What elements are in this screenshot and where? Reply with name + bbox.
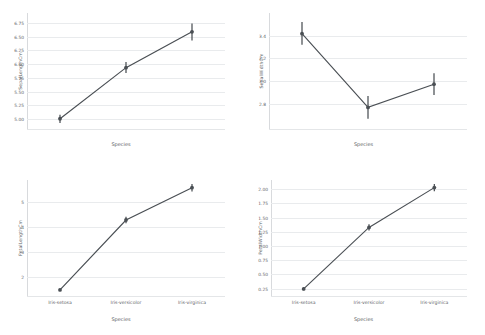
y-tick-label: 1.25 bbox=[258, 229, 271, 234]
y-tick-label: 3.2 bbox=[259, 56, 269, 61]
x-axis-label: Species bbox=[242, 316, 485, 322]
y-tick-label: 6.75 bbox=[14, 20, 27, 25]
plot-area: 0.250.500.751.001.251.501.752.00Iris-set… bbox=[271, 180, 467, 296]
data-point bbox=[367, 226, 371, 230]
data-point bbox=[366, 105, 370, 109]
y-axis-label: SepalLengthCm bbox=[18, 52, 23, 90]
y-tick-label: 1.50 bbox=[258, 215, 271, 220]
x-axis-line bbox=[271, 296, 467, 297]
series-line bbox=[60, 32, 192, 119]
panel-petal-length: PetalLengthCm Species 2345Iris-setosaIri… bbox=[0, 168, 242, 335]
y-tick-label: 5.25 bbox=[14, 103, 27, 108]
data-point bbox=[124, 218, 128, 222]
series-line bbox=[60, 188, 192, 290]
x-axis-line bbox=[269, 129, 467, 130]
data-point bbox=[58, 117, 62, 121]
x-tick-label: Iris-setosa bbox=[292, 300, 316, 305]
y-tick-label: 2.00 bbox=[258, 187, 271, 192]
panel-sepal-width: SepalWidthCm Species 2.83.03.23.4 bbox=[242, 0, 485, 168]
x-tick-label: Iris-setosa bbox=[48, 300, 72, 305]
y-tick-label: 0.25 bbox=[258, 286, 271, 291]
figure-grid: SepalLengthCm Species 5.005.255.505.756.… bbox=[0, 0, 485, 335]
y-tick-label: 5.00 bbox=[14, 117, 27, 122]
y-tick-label: 0.50 bbox=[258, 272, 271, 277]
series-line bbox=[304, 188, 435, 289]
y-tick-label: 0.75 bbox=[258, 258, 271, 263]
x-tick-label: Iris-versicolor bbox=[111, 300, 142, 305]
y-tick-label: 6.50 bbox=[14, 34, 27, 39]
x-axis-line bbox=[27, 129, 225, 130]
y-tick-label: 1.75 bbox=[258, 201, 271, 206]
x-axis-line bbox=[27, 296, 225, 297]
data-point bbox=[432, 82, 436, 86]
panel-petal-width: PetalWidthCm Species 0.250.500.751.001.2… bbox=[242, 168, 485, 335]
series-sepal bbox=[271, 180, 467, 296]
x-axis-label: Species bbox=[242, 141, 485, 147]
x-axis-label: Species bbox=[0, 141, 242, 147]
x-axis-label: Species bbox=[0, 316, 242, 322]
data-point bbox=[190, 186, 194, 190]
y-tick-label: 3.0 bbox=[259, 79, 269, 84]
plot-area: 5.005.255.505.756.006.256.506.75 bbox=[27, 13, 225, 129]
series-sepal bbox=[27, 180, 225, 296]
y-tick-label: 5.75 bbox=[14, 75, 27, 80]
y-tick-label: 5.50 bbox=[14, 89, 27, 94]
data-point bbox=[432, 186, 436, 190]
data-point bbox=[58, 288, 62, 292]
y-tick-label: 6.25 bbox=[14, 48, 27, 53]
series-sepal bbox=[269, 13, 467, 129]
y-tick-label: 2.8 bbox=[259, 101, 269, 106]
y-tick-label: 6.00 bbox=[14, 62, 27, 67]
panel-sepal-length: SepalLengthCm Species 5.005.255.505.756.… bbox=[0, 0, 242, 168]
x-tick-label: Iris-virginica bbox=[420, 300, 448, 305]
series-sepal bbox=[27, 13, 225, 129]
x-tick-label: Iris-virginica bbox=[178, 300, 206, 305]
x-tick-label: Iris-versicolor bbox=[354, 300, 385, 305]
plot-area: 2345Iris-setosaIris-versicolorIris-virgi… bbox=[27, 180, 225, 296]
data-point bbox=[124, 66, 128, 70]
y-tick-label: 1.00 bbox=[258, 243, 271, 248]
data-point bbox=[300, 32, 304, 36]
data-point bbox=[302, 287, 306, 291]
data-point bbox=[190, 30, 194, 34]
y-tick-label: 3.4 bbox=[259, 33, 269, 38]
plot-area: 2.83.03.23.4 bbox=[269, 13, 467, 129]
y-axis-label: PetalWidthCm bbox=[258, 221, 263, 255]
